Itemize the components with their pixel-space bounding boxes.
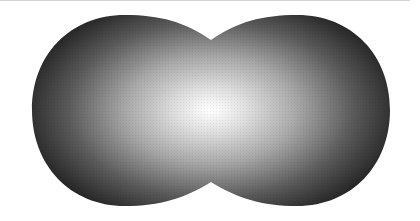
peanut-gradient-shape [0, 0, 420, 221]
